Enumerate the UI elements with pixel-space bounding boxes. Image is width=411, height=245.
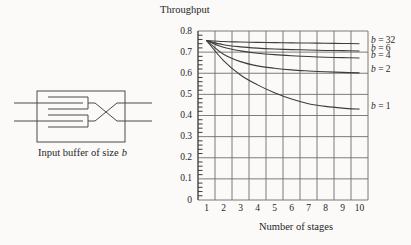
legend-entry: b = 4 [371,49,391,61]
legend-entry: b = 2 [371,63,391,75]
y-tick-label: 0.8 [166,26,192,37]
legend-entry: b = 1 [371,100,391,112]
figure: Input buffer of sizeb Throughput Number … [0,0,411,245]
y-tick-label: 0.7 [166,47,192,58]
y-tick-label: 0.1 [166,173,192,184]
y-tick-label: 0.6 [166,68,192,79]
y-tick-label: 0.4 [166,110,192,121]
x-axis-label: Number of stages [236,221,356,232]
x-tick-label: 10 [350,203,370,214]
legend-value: = 2 [376,64,391,74]
y-tick-label: 0 [166,195,192,206]
legend-value: = 4 [376,50,391,60]
y-tick-label: 0.3 [166,131,192,142]
y-tick-label: 0.5 [166,89,192,100]
legend-value: = 1 [376,101,391,111]
y-tick-label: 0.2 [166,152,192,163]
